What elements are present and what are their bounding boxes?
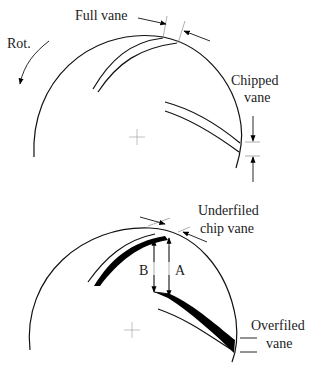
full-vane-line-outer bbox=[93, 38, 163, 89]
overfiled-label-1: Overfiled bbox=[251, 318, 305, 333]
full-vane-line-inner bbox=[98, 43, 177, 92]
underfiled-ext-right bbox=[178, 227, 190, 232]
underfiled-label-1: Underfiled bbox=[198, 203, 259, 218]
underfiled-label-2: chip vane bbox=[200, 221, 254, 236]
full-vane-ext-right bbox=[178, 21, 185, 43]
bottom-center-cross-icon bbox=[124, 322, 140, 338]
chipped-vane-label-1: Chipped bbox=[231, 73, 278, 88]
chipped-vane-label-2: vane bbox=[244, 90, 270, 105]
full-vane-arrow-left bbox=[138, 18, 166, 24]
chipped-vane-line-upper bbox=[165, 102, 240, 143]
full-vane-arrow-right bbox=[184, 31, 210, 41]
full-vane-label: Full vane bbox=[75, 8, 128, 23]
overfiled-label-2: vane bbox=[266, 336, 292, 351]
top-center-cross-icon bbox=[129, 129, 145, 145]
vane-diagram: Full vane Rot. Chipped vane bbox=[0, 0, 324, 377]
rotation-label: Rot. bbox=[7, 36, 31, 51]
dim-a-label: A bbox=[175, 263, 186, 278]
full-vane-ext-left bbox=[163, 16, 167, 38]
underfiled-arrow-left bbox=[140, 217, 165, 224]
top-rotor-outline bbox=[34, 36, 242, 168]
dim-b-label: B bbox=[139, 263, 148, 278]
top-diagram: Full vane Rot. Chipped vane bbox=[7, 8, 278, 182]
bottom-diagram: Underfiled chip vane B A Overfiled vane bbox=[29, 203, 304, 362]
